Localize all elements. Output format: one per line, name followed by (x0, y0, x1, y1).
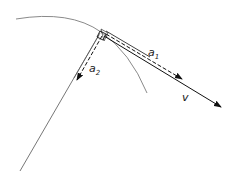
label-a2: a2 (89, 62, 101, 77)
tangential-acceleration-arrow (106, 34, 182, 79)
trajectory-arc (16, 16, 147, 93)
velocity-vector (104, 36, 221, 107)
label-a1: a1 (148, 46, 159, 61)
label-v: v (182, 91, 189, 104)
velocity-vector-top-edge (106, 31, 150, 57)
vector-diagram: a1 a2 v (0, 0, 232, 184)
